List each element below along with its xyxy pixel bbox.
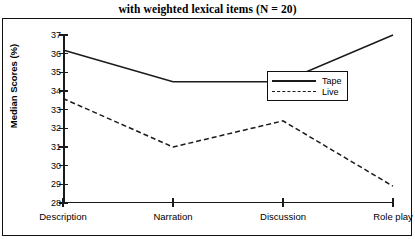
plot-area: 28293031323334353637 DescriptionNarratio…	[63, 35, 393, 203]
y-tick-label: 31	[35, 142, 61, 152]
legend-label: Live	[322, 87, 339, 97]
y-tick-label: 29	[35, 179, 61, 189]
y-tick-label: 34	[35, 86, 61, 96]
y-axis-label: Median Scores (%)	[6, 26, 20, 146]
x-tick-label: Discussion	[235, 211, 331, 222]
chart-frame: Median Scores (%) 28293031323334353637 D…	[2, 18, 412, 236]
legend-swatch-solid-icon	[272, 77, 316, 85]
legend-item: Tape	[272, 75, 342, 86]
y-tick-label: 30	[35, 160, 61, 170]
series-line-live	[63, 98, 393, 186]
y-tick-label: 28	[35, 198, 61, 208]
series-lines	[63, 35, 393, 203]
y-tick-label: 35	[35, 67, 61, 77]
x-tick-label: Role play	[345, 211, 415, 222]
y-tick-label: 32	[35, 123, 61, 133]
x-tick-label: Description	[15, 211, 111, 222]
x-tick-label: Narration	[125, 211, 221, 222]
chart-figure: with weighted lexical items (N = 20) Med…	[0, 0, 415, 239]
y-tick-label: 36	[35, 48, 61, 58]
y-tick-label: 37	[35, 30, 61, 40]
legend-item: Live	[272, 86, 342, 97]
legend-label: Tape	[322, 76, 342, 86]
y-tick-label: 33	[35, 104, 61, 114]
legend-swatch-dashed-icon	[272, 88, 316, 96]
figure-title: with weighted lexical items (N = 20)	[0, 0, 415, 17]
legend: TapeLive	[267, 71, 348, 101]
